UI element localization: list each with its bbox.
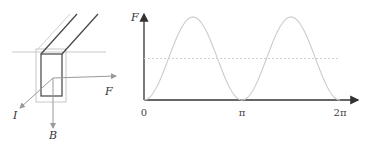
- conductor-loop: [41, 54, 62, 96]
- force-label: F: [104, 85, 113, 98]
- figure: F I B F 0π2π: [0, 0, 366, 145]
- x-tick-label-2: 2π: [334, 107, 347, 118]
- y-axis-label: F: [130, 11, 139, 24]
- current-label: I: [12, 109, 18, 122]
- force-chart: F 0π2π: [130, 11, 358, 118]
- x-tick-label-0: 0: [141, 107, 147, 118]
- conductor-lead-right: [62, 14, 98, 54]
- x-tick-label-1: π: [239, 107, 246, 118]
- conductor-lead-outline: [37, 14, 70, 50]
- field-label: B: [48, 129, 57, 142]
- conductor-diagram: F I B: [12, 14, 116, 142]
- conductor-lead-left: [41, 14, 77, 54]
